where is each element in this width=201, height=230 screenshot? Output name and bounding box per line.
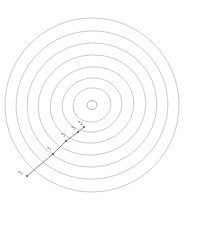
iteration-label-x1: x1 (47, 145, 51, 153)
iteration-label-x1-sub: 1 (50, 148, 52, 152)
iteration-label-x2: x2 (61, 131, 65, 139)
contour-level-7 (0, 2, 195, 208)
contour-level-6 (2, 17, 181, 193)
path-node-x1 (52, 153, 54, 155)
iteration-label-x0-sub: 0 (21, 172, 23, 176)
iteration-label-x3-sub: 3 (74, 127, 76, 131)
contour-level-0-minimum (86, 100, 98, 111)
path-node-x0 (26, 175, 28, 177)
contour-figure: x0 x1 x2 x3 x4 (0, 0, 201, 230)
contour-plot-canvas (0, 0, 201, 230)
path-node-x3 (77, 131, 79, 133)
iteration-label-x3: x3 (71, 124, 75, 132)
contour-level-1 (70, 84, 114, 125)
contour-level-set-group (0, 2, 195, 208)
contour-level-2 (57, 72, 127, 137)
path-node-x4 (83, 126, 85, 128)
iteration-label-x2-sub: 2 (64, 134, 66, 138)
iteration-label-x4: x4 (78, 119, 82, 127)
descent-path-group (26, 126, 85, 177)
contour-level-3 (43, 59, 141, 151)
path-node-x2 (65, 140, 67, 142)
iteration-label-x0: x0 (18, 169, 22, 177)
iteration-label-x4-sub: 4 (81, 122, 83, 126)
descent-path-polyline (27, 127, 84, 176)
